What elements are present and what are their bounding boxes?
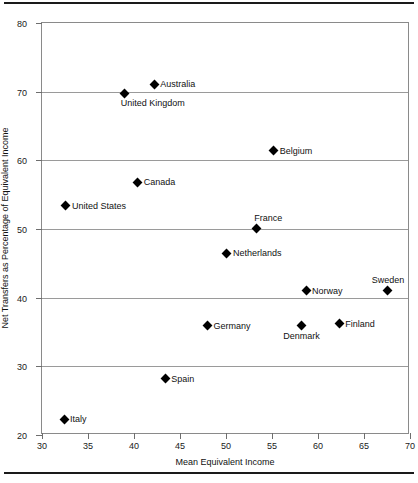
gridline-y-70 — [42, 92, 408, 93]
y-tick-label-80: 80 — [17, 20, 27, 29]
y-tick-label-70: 70 — [17, 88, 27, 97]
gridline-y-50 — [42, 229, 408, 230]
scatter-chart-figure: 20304050607080 303540455055606570 Austra… — [0, 0, 418, 483]
y-tick-40: 40 — [36, 298, 42, 299]
y-tick-50: 50 — [36, 229, 42, 230]
y-tick-label-40: 40 — [17, 294, 27, 303]
data-point-label: Denmark — [283, 331, 320, 341]
diamond-marker-icon — [301, 286, 311, 296]
y-tick-60: 60 — [36, 160, 42, 161]
y-tick-label-20: 20 — [17, 432, 27, 441]
data-point-label: United Kingdom — [121, 98, 185, 108]
x-tick-40 — [134, 433, 135, 439]
x-tick-30 — [42, 433, 43, 439]
x-tick-70 — [410, 433, 411, 439]
x-tick-label-35: 35 — [83, 442, 93, 451]
diamond-marker-icon — [296, 321, 306, 331]
diamond-marker-icon — [120, 88, 130, 98]
top-horizontal-rule — [4, 2, 414, 4]
x-tick-label-70: 70 — [405, 442, 415, 451]
diamond-marker-icon — [222, 248, 232, 258]
x-tick-35 — [88, 433, 89, 439]
x-tick-60 — [318, 433, 319, 439]
x-tick-65 — [364, 433, 365, 439]
gridline-y-40 — [42, 298, 408, 299]
x-tick-label-55: 55 — [267, 442, 277, 451]
gridline-y-30 — [42, 366, 408, 367]
x-tick-label-60: 60 — [313, 442, 323, 451]
x-axis-title: Mean Equivalent Income — [175, 457, 274, 467]
diamond-marker-icon — [59, 414, 69, 424]
x-tick-55 — [272, 433, 273, 439]
diamond-marker-icon — [251, 223, 261, 233]
data-point-label: Sweden — [372, 275, 405, 285]
x-tick-label-30: 30 — [37, 442, 47, 451]
data-point-label: Belgium — [280, 146, 313, 156]
plot-area: 20304050607080 303540455055606570 Austra… — [41, 22, 409, 434]
y-tick-label-60: 60 — [17, 157, 27, 166]
data-point-label: United States — [72, 201, 126, 211]
y-tick-80: 80 — [36, 23, 42, 24]
x-tick-50 — [226, 433, 227, 439]
diamond-marker-icon — [383, 285, 393, 295]
data-point-label: Australia — [160, 79, 195, 89]
y-tick-30: 30 — [36, 366, 42, 367]
diamond-marker-icon — [133, 177, 143, 187]
y-tick-label-50: 50 — [17, 226, 27, 235]
y-axis-title: Net Transfers as Percentage of Equivalen… — [0, 127, 10, 328]
diamond-marker-icon — [334, 319, 344, 329]
data-point-label: Netherlands — [233, 248, 282, 258]
y-tick-70: 70 — [36, 92, 42, 93]
data-point-label: Canada — [144, 177, 176, 187]
bottom-horizontal-rule — [4, 472, 414, 474]
diamond-marker-icon — [269, 146, 279, 156]
x-tick-label-40: 40 — [129, 442, 139, 451]
diamond-marker-icon — [160, 374, 170, 384]
data-point-label: Germany — [214, 321, 251, 331]
diamond-marker-icon — [61, 201, 71, 211]
gridline-y-60 — [42, 160, 408, 161]
diamond-marker-icon — [149, 79, 159, 89]
data-point-label: Italy — [70, 414, 87, 424]
diamond-marker-icon — [203, 321, 213, 331]
data-point-label: Finland — [345, 319, 375, 329]
x-tick-label-50: 50 — [221, 442, 231, 451]
data-point-label: Spain — [171, 374, 194, 384]
x-tick-label-45: 45 — [175, 442, 185, 451]
x-tick-label-65: 65 — [359, 442, 369, 451]
data-point-label: France — [254, 213, 282, 223]
y-tick-label-30: 30 — [17, 363, 27, 372]
x-tick-45 — [180, 433, 181, 439]
data-point-label: Norway — [312, 286, 343, 296]
